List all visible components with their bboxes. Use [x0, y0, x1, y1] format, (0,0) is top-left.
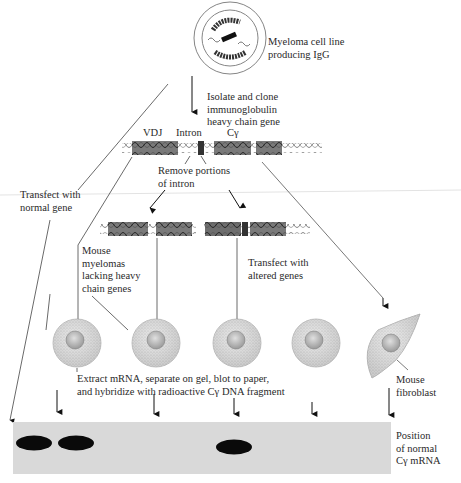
blot-paper — [13, 422, 391, 474]
label-fibroblast: Mousefibroblast — [396, 374, 436, 399]
altered-gene-1 — [100, 222, 196, 236]
label-cgamma: Cγ — [227, 127, 239, 140]
label-position-normal-mrna: Positionof normalCγ mRNA — [396, 430, 441, 468]
band-lane-2 — [58, 436, 94, 451]
cell-3 — [213, 319, 261, 367]
label-mouse-myelomas: Mousemyelomaslacking heavychain genes — [82, 245, 141, 295]
altered-gene-2 — [204, 222, 310, 236]
label-intron: Intron — [176, 127, 202, 140]
heavy-chain-gene — [122, 141, 322, 155]
band-lane-4 — [216, 440, 252, 455]
fibroblast-cell — [367, 314, 420, 378]
cell-2 — [132, 319, 180, 367]
diagram-canvas — [0, 0, 461, 483]
label-isolate-clone: Isolate and cloneimmunoglobulinheavy cha… — [207, 91, 280, 129]
label-myeloma: Myeloma cell lineproducing IgG — [268, 36, 344, 61]
label-vdj: VDJ — [143, 127, 162, 140]
cell-4 — [292, 319, 340, 367]
label-transfect-altered: Transfect withaltered genes — [248, 257, 309, 282]
band-lane-1 — [16, 436, 52, 451]
label-remove-intron: Remove portionsof intron — [158, 165, 230, 190]
cell-1 — [53, 319, 101, 367]
label-extract-mrna: Extract mRNA, separate on gel, blot to p… — [77, 373, 285, 398]
label-transfect-normal: Transfect withnormal gene — [20, 189, 81, 214]
myeloma-cell — [194, 2, 266, 74]
